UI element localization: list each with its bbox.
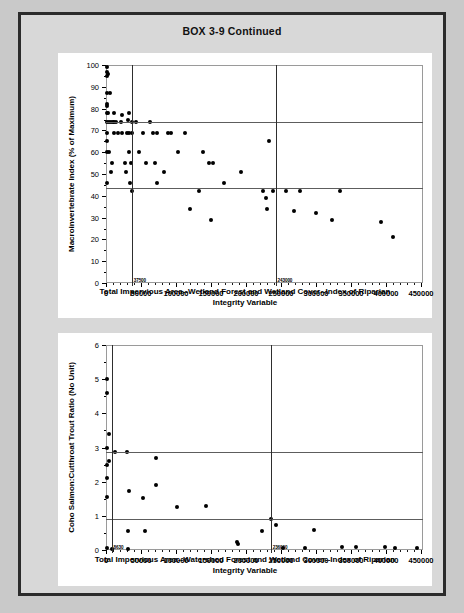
x-tick-minor: [253, 550, 254, 552]
y-tick-minor: [104, 229, 106, 230]
x-axis-title-bottom: Total Impervious Area--Watershed Forest …: [58, 554, 432, 576]
scatter-point: [105, 181, 109, 185]
x-tick-minor: [169, 283, 170, 285]
y-tick-label: 3: [58, 443, 99, 452]
y-axis-title-top: Macroinvertebrate Index (% of Maximum): [67, 65, 76, 283]
y-tick: [102, 345, 106, 346]
vertical-reference-line: [271, 345, 272, 553]
y-tick: [102, 516, 106, 517]
x-tick-minor: [218, 283, 219, 285]
y-tick: [102, 109, 106, 110]
x-tick-minor: [225, 283, 226, 285]
x-tick-minor: [155, 550, 156, 552]
scatter-point: [176, 150, 180, 154]
x-tick-minor: [113, 283, 114, 285]
reference-line-annotation: 8630: [114, 545, 124, 550]
x-tick-minor: [120, 550, 121, 552]
scatter-point: [379, 220, 383, 224]
x-tick-minor: [309, 550, 310, 552]
x-tick-minor: [204, 283, 205, 285]
x-tick-minor: [400, 550, 401, 552]
y-tick: [102, 482, 106, 483]
x-tick-minor: [120, 283, 121, 285]
scatter-point: [169, 131, 173, 135]
x-axis-title-top-line1: Total Impervious Area--Wetland Forest an…: [58, 286, 432, 297]
y-tick-label: 6: [58, 341, 99, 350]
x-tick-minor: [260, 283, 261, 285]
y-tick: [102, 218, 106, 219]
x-tick-minor: [134, 283, 135, 285]
scatter-point: [137, 150, 141, 154]
reference-line-annotation: 243000: [278, 278, 293, 283]
x-tick-minor: [232, 550, 233, 552]
vertical-reference-line: [276, 65, 277, 286]
x-tick-minor: [267, 283, 268, 285]
y-tick-minor: [104, 430, 106, 431]
chart-card-coho-cutthroat: 0123456 05000010000015000020000025000030…: [58, 333, 432, 586]
y-tick: [102, 87, 106, 88]
x-tick-minor: [323, 283, 324, 285]
y-tick: [102, 174, 106, 175]
x-tick-minor: [288, 283, 289, 285]
x-tick-minor: [365, 550, 366, 552]
page-title: BOX 3-9 Continued: [21, 25, 443, 37]
scatter-point: [105, 495, 109, 499]
y-tick-label: 5: [58, 375, 99, 384]
x-tick-minor: [239, 283, 240, 285]
x-tick-minor: [162, 283, 163, 285]
x-tick-minor: [323, 550, 324, 552]
x-tick-minor: [365, 283, 366, 285]
x-tick-minor: [162, 550, 163, 552]
scatter-point: [207, 161, 211, 165]
scatter-point: [105, 131, 109, 135]
scatter-point: [141, 131, 145, 135]
scatter-point: [112, 111, 116, 115]
y-tick-minor: [104, 98, 106, 99]
scatter-point: [124, 170, 128, 174]
y-tick-label: 70: [58, 126, 99, 135]
x-tick-minor: [295, 550, 296, 552]
x-tick-minor: [337, 283, 338, 285]
x-tick-minor: [204, 550, 205, 552]
x-tick-minor: [372, 550, 373, 552]
chart-card-macroinvertebrate: 0102030405060708090100 05000010000015000…: [58, 53, 432, 318]
scatter-point: [162, 170, 166, 174]
y-tick-label: 90: [58, 82, 99, 91]
horizontal-reference-line: [106, 122, 423, 123]
y-tick-minor: [104, 163, 106, 164]
x-tick-minor: [267, 550, 268, 552]
scatter-point: [105, 74, 109, 78]
plot-area-macroinvertebrate: [106, 65, 421, 283]
horizontal-reference-line: [106, 452, 423, 453]
x-axis-title-bottom-line1: Total Impervious Area--Watershed Forest …: [58, 554, 432, 565]
x-tick-minor: [288, 550, 289, 552]
x-tick-minor: [127, 283, 128, 285]
x-tick-minor: [155, 283, 156, 285]
x-axis-title-top-line2: Integrity Variable: [58, 297, 432, 308]
y-tick: [102, 239, 106, 240]
x-tick-minor: [302, 550, 303, 552]
y-tick-label: 10: [58, 257, 99, 266]
scatter-point: [110, 161, 114, 165]
y-tick-label: 2: [58, 477, 99, 486]
scatter-point: [330, 218, 334, 222]
scatter-point: [120, 131, 124, 135]
x-tick-minor: [239, 550, 240, 552]
y-tick-label: 80: [58, 104, 99, 113]
x-tick-minor: [414, 283, 415, 285]
x-tick-minor: [183, 283, 184, 285]
scatter-point: [123, 161, 127, 165]
x-tick-minor: [372, 283, 373, 285]
x-tick-minor: [330, 550, 331, 552]
x-tick-minor: [309, 283, 310, 285]
scatter-point: [260, 529, 264, 533]
x-tick-minor: [190, 283, 191, 285]
y-tick-minor: [104, 533, 106, 534]
reference-line-annotation: 37500: [134, 278, 146, 283]
x-tick-minor: [344, 550, 345, 552]
x-tick-minor: [400, 283, 401, 285]
x-tick-minor: [344, 283, 345, 285]
scatter-point: [183, 131, 187, 135]
x-tick-minor: [358, 550, 359, 552]
y-tick-label: 30: [58, 213, 99, 222]
